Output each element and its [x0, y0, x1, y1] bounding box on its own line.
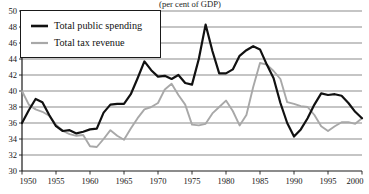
y-axis-tick-label: 38	[9, 102, 18, 112]
x-axis-tick-label: 1975	[184, 176, 201, 186]
x-axis-tick-label: 1965	[116, 176, 133, 186]
x-axis-tick-label: 1980	[218, 176, 235, 186]
x-axis-tick-label: 1955	[48, 176, 65, 186]
x-axis-tick-label: 1990	[286, 176, 303, 186]
y-axis-tick-label: 32	[9, 150, 18, 160]
x-axis-tick-label: 1995	[320, 176, 337, 186]
series-line-total-tax-revenue	[22, 63, 362, 147]
x-axis-tick-label: 1985	[252, 176, 269, 186]
chart-legend: Total public spending Total tax revenue	[21, 11, 161, 58]
legend-box	[21, 11, 161, 58]
y-axis-tick-label: 42	[9, 70, 18, 80]
y-axis-tick-label: 34	[9, 134, 18, 144]
legend-label-total-tax-revenue: Total tax revenue	[54, 37, 125, 48]
line-chart: 3032343638404244464850 19501955196019651…	[0, 0, 369, 194]
x-axis-tick-label: 1970	[150, 176, 167, 186]
chart-title: (per cent of GDP)	[159, 0, 221, 9]
y-axis-tick-label: 50	[9, 6, 18, 16]
y-axis-tick-label: 46	[9, 38, 18, 48]
y-axis-labels: 3032343638404244464850	[9, 6, 18, 176]
x-axis-tick-label: 1960	[82, 176, 99, 186]
y-axis-tick-label: 48	[9, 22, 18, 32]
x-axis-tick-label: 2000	[347, 176, 364, 186]
y-axis-tick-label: 36	[9, 118, 18, 128]
legend-label-total-public-spending: Total public spending	[54, 20, 142, 31]
chart-container: 3032343638404244464850 19501955196019651…	[0, 0, 369, 194]
x-axis-labels: 1950195519601965197019751980198519901995…	[20, 176, 364, 186]
y-axis-tick-label: 30	[9, 166, 18, 176]
x-axis-tick-label: 1950	[20, 176, 37, 186]
y-axis-tick-label: 40	[9, 86, 18, 96]
y-axis-tick-label: 44	[9, 54, 18, 64]
